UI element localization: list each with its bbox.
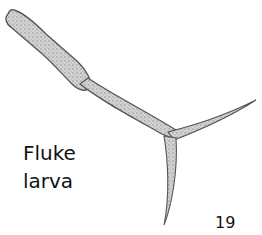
fluke-larva-illustration	[0, 0, 262, 235]
figure-number: 19	[215, 215, 235, 231]
figure-label-line-1: Fluke	[23, 143, 76, 163]
larva-tail-fork-lower	[164, 136, 176, 225]
figure-label-line-2: larva	[23, 171, 73, 191]
larva-body	[6, 10, 90, 91]
larva-tail-fork-right	[168, 100, 256, 140]
larva-tail-stem	[80, 78, 176, 138]
